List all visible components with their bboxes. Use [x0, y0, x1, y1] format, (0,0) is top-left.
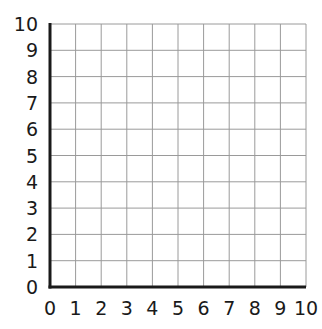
- y-tick-label: 3: [26, 197, 38, 219]
- x-tick-label: 5: [172, 297, 184, 319]
- y-tick-label: 2: [26, 223, 38, 245]
- y-tick-label: 8: [26, 66, 38, 88]
- y-tick-label: 1: [26, 250, 38, 272]
- y-tick-label: 5: [26, 145, 38, 167]
- x-tick-label: 2: [95, 297, 107, 319]
- y-tick-label: 6: [26, 118, 38, 140]
- y-tick-label: 9: [26, 39, 38, 61]
- x-axis-tick-labels: 012345678910: [44, 297, 318, 319]
- x-tick-label: 0: [44, 297, 56, 319]
- x-tick-label: 1: [70, 297, 82, 319]
- x-tick-label: 4: [146, 297, 158, 319]
- coordinate-grid-chart: 012345678910 012345678910: [0, 0, 322, 329]
- y-axis-tick-labels: 012345678910: [14, 13, 38, 298]
- grid-lines: [50, 24, 306, 287]
- y-tick-label: 10: [14, 13, 38, 35]
- x-tick-label: 10: [294, 297, 318, 319]
- y-tick-label: 0: [26, 276, 38, 298]
- x-tick-label: 8: [249, 297, 261, 319]
- y-tick-label: 4: [26, 171, 38, 193]
- x-tick-label: 6: [198, 297, 210, 319]
- y-tick-label: 7: [26, 92, 38, 114]
- x-tick-label: 9: [274, 297, 286, 319]
- x-tick-label: 7: [223, 297, 235, 319]
- x-tick-label: 3: [121, 297, 133, 319]
